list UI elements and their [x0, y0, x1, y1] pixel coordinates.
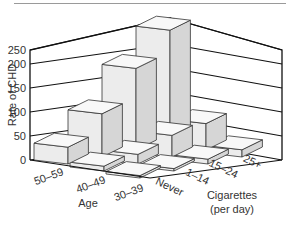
- cig-axis-title-2: (per day): [210, 203, 254, 215]
- chd-3d-bar-chart: 05010015020025050–5940–4930–39Never1–141…: [0, 0, 295, 231]
- age-tick-label: 30–39: [112, 181, 145, 203]
- y-axis-title: Rate of CHD: [6, 64, 18, 126]
- cig-tick-label: 15–24: [207, 156, 240, 180]
- y-tick-label: 50: [14, 130, 26, 142]
- cig-tick-label: Never: [154, 175, 186, 198]
- cig-tick-label: 1–14: [184, 166, 211, 187]
- y-tick-label: 0: [20, 154, 26, 166]
- cig-axis-title-1: Cigarettes: [207, 189, 258, 201]
- chart-bars: [34, 16, 262, 178]
- cig-tick-label: 25+: [242, 152, 264, 171]
- y-tick-label: 250: [8, 44, 26, 56]
- age-tick-label: 40–49: [74, 173, 107, 195]
- age-axis-title: Age: [78, 197, 98, 209]
- age-tick-label: 50–59: [32, 165, 65, 187]
